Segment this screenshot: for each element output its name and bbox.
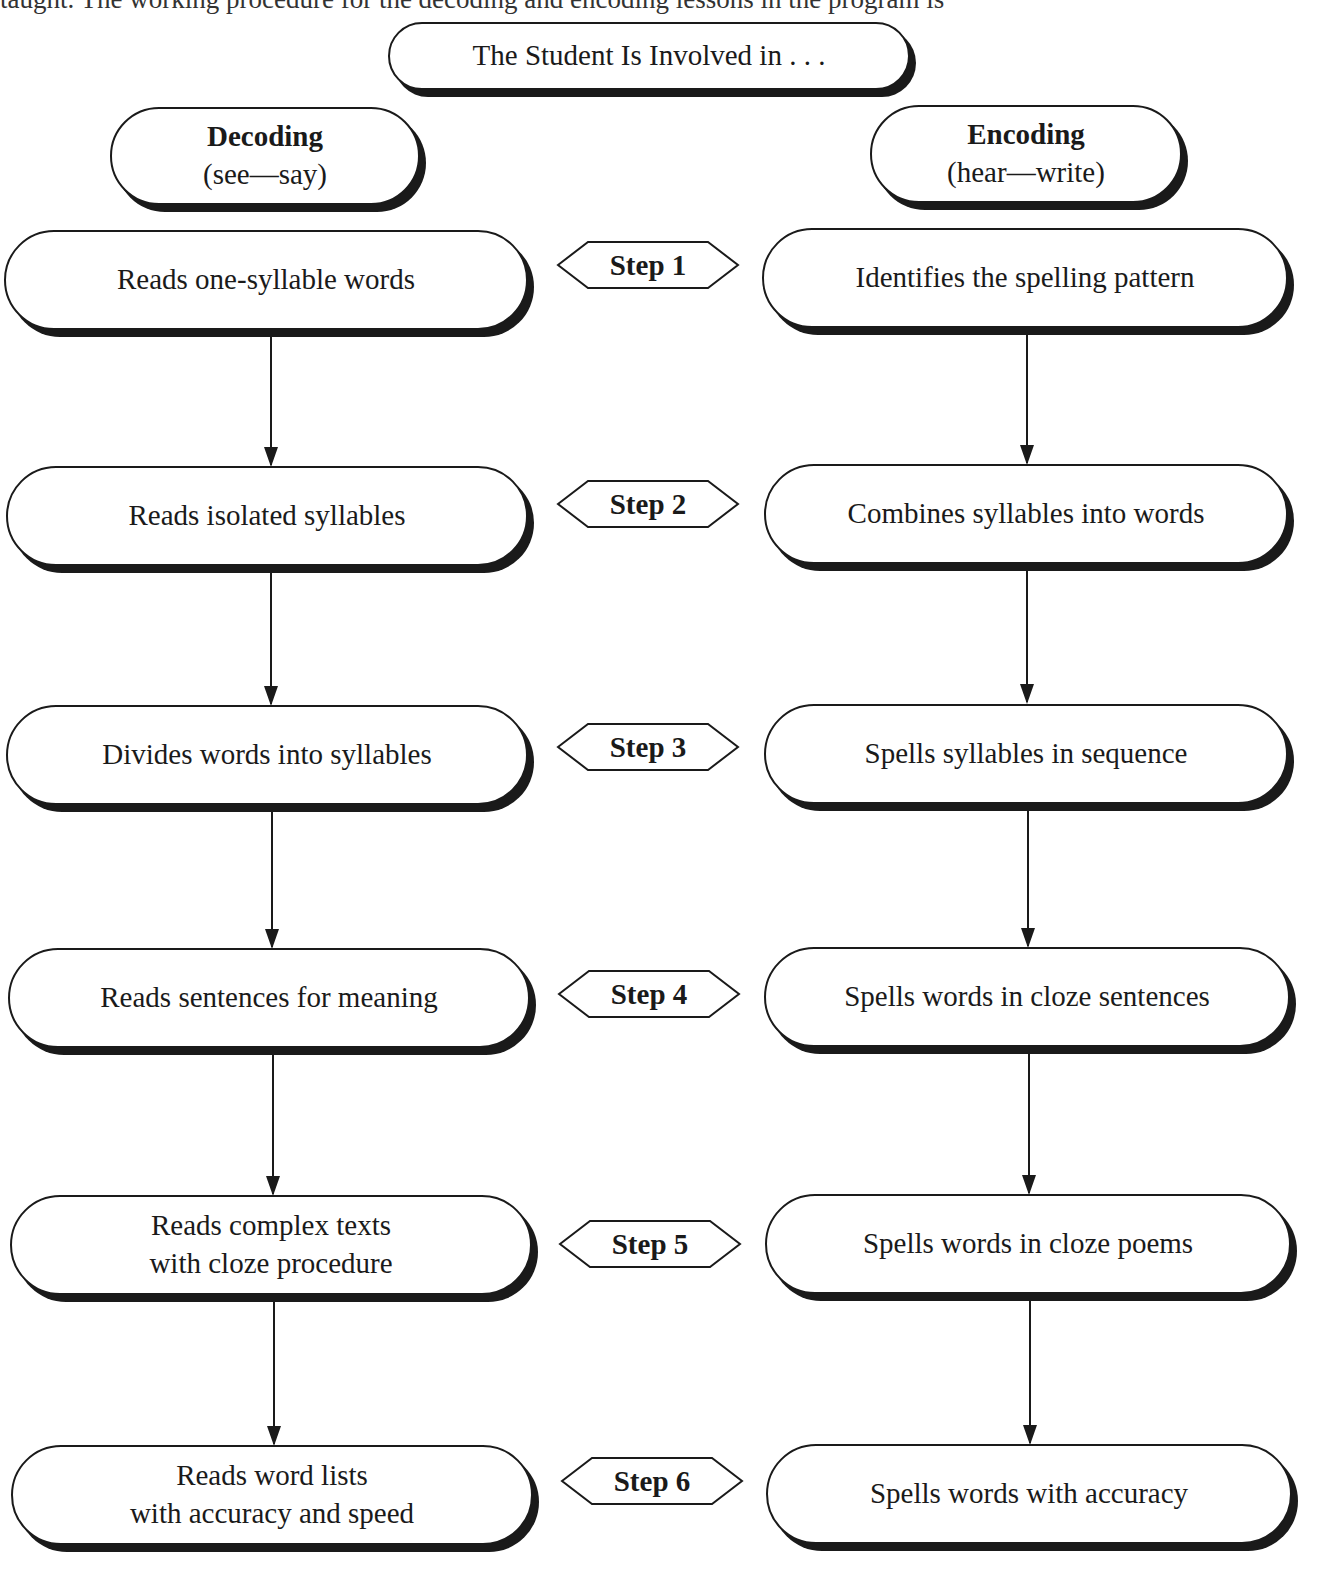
encoding-step-6-text: Spells words with accuracy [870,1475,1188,1513]
step-4-label: Step 4 [557,969,741,1019]
decoding-step-1-text: Reads one-syllable words [117,261,415,299]
encoding-arrow-2-3 [1026,571,1028,702]
encoding-step-4-text: Spells words in cloze sentences [844,978,1210,1016]
diagram-title-node: The Student Is Involved in . . . [388,22,910,90]
encoding-arrow-1-2 [1026,335,1028,463]
step-2-badge: Step 2 [556,479,740,529]
encoding-step-1-text: Identifies the spelling pattern [855,259,1194,297]
encoding-heading: Encoding [967,116,1085,154]
decoding-step-6-node: Reads word lists with accuracy and speed [11,1445,533,1545]
step-5-badge: Step 5 [558,1219,742,1269]
decoding-step-2-node: Reads isolated syllables [6,466,528,566]
decoding-step-4-text: Reads sentences for meaning [100,979,437,1017]
decoding-step-1-node: Reads one-syllable words [4,230,528,330]
encoding-step-5-text: Spells words in cloze poems [863,1225,1193,1263]
step-3-badge: Step 3 [556,722,740,772]
decoding-subheading: (see—say) [203,156,327,194]
step-6-badge: Step 6 [560,1456,744,1506]
decoding-step-6-text-line-2: with accuracy and speed [130,1495,414,1533]
encoding-subheading: (hear—write) [947,154,1105,192]
step-2-label: Step 2 [556,479,740,529]
encoding-header-node: Encoding (hear—write) [870,105,1182,203]
encoding-step-3-text: Spells syllables in sequence [865,735,1188,773]
step-3-label: Step 3 [556,722,740,772]
step-4-badge: Step 4 [557,969,741,1019]
step-1-badge: Step 1 [556,240,740,290]
decoding-step-3-node: Divides words into syllables [6,705,528,805]
decoding-step-4-node: Reads sentences for meaning [8,948,530,1048]
decoding-arrow-3-4 [271,812,273,947]
step-5-label: Step 5 [558,1219,742,1269]
encoding-arrow-4-5 [1028,1054,1030,1193]
decoding-step-5-text-line-2: with cloze procedure [149,1245,392,1283]
encoding-step-3-node: Spells syllables in sequence [764,704,1288,804]
decoding-step-6-text-line-1: Reads word lists [176,1457,368,1495]
decoding-arrow-1-2 [270,337,272,465]
step-6-label: Step 6 [560,1456,744,1506]
decoding-heading: Decoding [207,118,323,156]
decoding-arrow-5-6 [273,1302,275,1444]
cut-off-body-text: taught. The working procedure for the de… [0,0,1318,14]
encoding-step-5-node: Spells words in cloze poems [765,1194,1291,1294]
encoding-arrow-3-4 [1027,811,1029,946]
decoding-step-5-text-line-1: Reads complex texts [151,1207,391,1245]
encoding-step-2-text: Combines syllables into words [848,495,1205,533]
decoding-step-3-text: Divides words into syllables [102,736,431,774]
decoding-step-2-text: Reads isolated syllables [128,497,405,535]
diagram-title: The Student Is Involved in . . . [473,37,826,75]
encoding-step-4-node: Spells words in cloze sentences [764,947,1290,1047]
decoding-arrow-4-5 [272,1055,274,1194]
decoding-header-node: Decoding (see—say) [110,107,420,205]
encoding-step-2-node: Combines syllables into words [764,464,1288,564]
encoding-step-6-node: Spells words with accuracy [766,1444,1292,1544]
encoding-arrow-5-6 [1029,1301,1031,1443]
decoding-arrow-2-3 [270,573,272,704]
encoding-step-1-node: Identifies the spelling pattern [762,228,1288,328]
decoding-step-5-node: Reads complex texts with cloze procedure [10,1195,532,1295]
step-1-label: Step 1 [556,240,740,290]
